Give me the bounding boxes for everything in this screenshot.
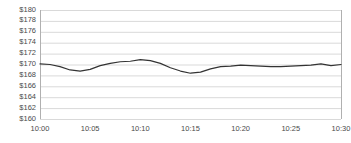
x-tick-label: 10:05 bbox=[70, 125, 110, 133]
x-tick-label: 10:00 bbox=[20, 125, 60, 133]
x-axis-tick-labels: 10:0010:0510:1010:1510:2010:2510:30 bbox=[0, 0, 351, 143]
x-tick-label: 10:25 bbox=[271, 125, 311, 133]
x-tick-label: 10:30 bbox=[321, 125, 351, 133]
x-tick-label: 10:15 bbox=[171, 125, 211, 133]
x-tick-label: 10:20 bbox=[221, 125, 261, 133]
x-tick-label: 10:10 bbox=[120, 125, 160, 133]
line-chart: $180$178$176$174$172$170$168$166$164$162… bbox=[0, 0, 351, 143]
